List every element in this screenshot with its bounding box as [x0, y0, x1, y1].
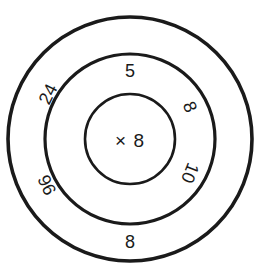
middle-segment-top-label: 5: [125, 61, 135, 81]
wheel-canvas: × 8 5 8 10 24 96 8: [0, 0, 259, 278]
multiplication-wheel-diagram: × 8 5 8 10 24 96 8: [0, 0, 259, 278]
center-multiplier-label: × 8: [115, 130, 145, 151]
center-hub: × 8: [115, 130, 145, 151]
outer-segment-bottom-label: 8: [125, 232, 135, 252]
